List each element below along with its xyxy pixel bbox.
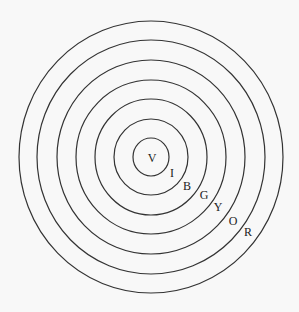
- label-v: V: [148, 151, 157, 165]
- label-o: O: [229, 214, 238, 228]
- label-i: I: [170, 166, 174, 180]
- label-y: Y: [214, 200, 223, 214]
- label-g: G: [200, 188, 209, 202]
- concentric-rings-diagram: V I B G Y O R: [0, 0, 299, 312]
- rings-svg: V I B G Y O R: [0, 0, 299, 312]
- label-b: B: [183, 179, 191, 193]
- label-r: R: [244, 225, 252, 239]
- labels-group: V I B G Y O R: [148, 151, 252, 239]
